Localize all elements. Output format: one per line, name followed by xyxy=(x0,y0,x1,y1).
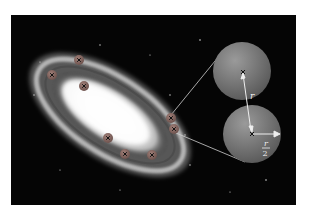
label-r-half-den: 2 xyxy=(263,149,268,158)
label-r: r xyxy=(250,91,255,101)
galaxy xyxy=(9,28,211,202)
galaxy-diagram: r r 2 xyxy=(0,0,310,213)
